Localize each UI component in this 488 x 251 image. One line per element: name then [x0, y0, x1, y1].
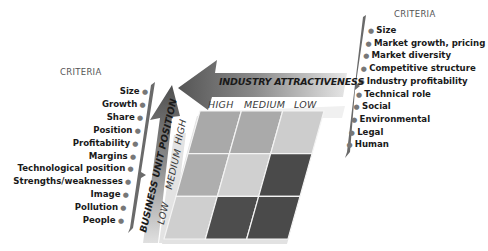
left-criteria-item: Strengths/weaknesses ●: [13, 176, 131, 187]
bullet-icon: ●: [128, 153, 136, 161]
bullet-icon: ●: [363, 52, 371, 60]
left-criteria-item: People ●: [83, 215, 124, 226]
bullet-icon: ●: [118, 204, 126, 212]
bullet-icon: ●: [123, 178, 131, 186]
bullet-icon: ●: [349, 129, 357, 137]
matrix-grid: [164, 111, 324, 239]
column-label-high: HIGH: [208, 99, 234, 110]
bullet-icon: ●: [140, 88, 148, 96]
left-criteria-item: Margins ●: [89, 151, 136, 162]
left-criteria-item: Profitability ●: [73, 138, 139, 149]
right-criteria-item: ● Market diversity: [363, 50, 451, 61]
left-criteria-item: Image ●: [91, 189, 129, 200]
right-criteria-item: ● Market growth, pricing: [366, 38, 486, 49]
right-criteria-item: ● Social: [354, 101, 391, 112]
bullet-icon: ●: [120, 191, 128, 199]
bullet-icon: ●: [351, 116, 359, 124]
left-criteria-item: Pollution ●: [75, 202, 127, 213]
bullet-icon: ●: [130, 140, 138, 148]
bullet-icon: ●: [346, 141, 354, 149]
bullet-icon: ●: [366, 40, 374, 48]
bullet-icon: ●: [137, 101, 145, 109]
right-criteria-item: ● Environmental: [351, 114, 430, 125]
right-criteria-item: ● Competitive structure: [361, 63, 476, 74]
left-criteria-item: Size ●: [120, 86, 148, 97]
industry-attractiveness-label: INDUSTRY ATTRACTIVENESS: [219, 76, 364, 87]
right-criteria-item: ● Human: [346, 139, 389, 150]
left-criteria-title: CRITERIA: [60, 67, 102, 77]
bullet-icon: ●: [132, 127, 140, 135]
right-criteria-item: ● Legal: [349, 127, 384, 138]
bullet-icon: ●: [354, 103, 362, 111]
bullet-icon: ●: [361, 65, 369, 73]
column-label-medium: MEDIUM: [244, 99, 285, 110]
bullet-icon: ●: [116, 217, 124, 225]
right-criteria-item: ● Size: [368, 25, 396, 36]
right-criteria-item: ● Technical role: [356, 89, 431, 100]
left-criteria-item: Position ●: [93, 125, 141, 136]
right-criteria-item: ● Industry profitability: [358, 76, 467, 87]
column-label-low: LOW: [294, 99, 317, 110]
bullet-icon: ●: [125, 165, 133, 173]
left-criteria-item: Share ●: [107, 112, 144, 123]
right-criteria-title: CRITERIA: [394, 9, 436, 19]
left-criteria-item: Technological position ●: [18, 163, 134, 174]
bullet-icon: ●: [135, 114, 143, 122]
left-criteria-item: Growth ●: [102, 99, 146, 110]
